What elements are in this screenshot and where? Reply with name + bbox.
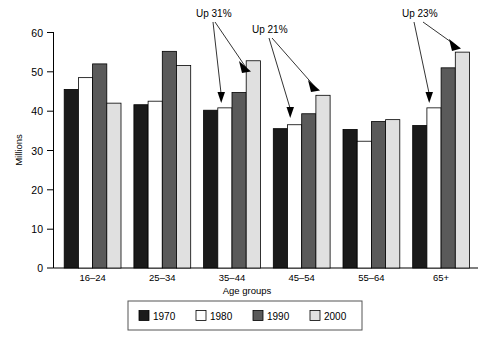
bar: [64, 89, 78, 268]
x-tick-label-0: 16–24: [79, 272, 105, 283]
legend-swatch-1990: [253, 311, 263, 321]
x-tick-label-3: 45–54: [288, 272, 314, 283]
y-tick-label-60: 60: [31, 27, 43, 39]
bar: [107, 103, 121, 268]
bar: [455, 52, 469, 268]
bar: [302, 114, 316, 268]
bar: [204, 110, 218, 268]
legend-swatch-2000: [310, 311, 320, 321]
y-tick-label-20: 20: [31, 184, 43, 196]
legend-item-1980[interactable]: 1980: [196, 311, 233, 322]
annotation-label-3: Up 23%: [402, 8, 438, 19]
bar: [316, 95, 330, 268]
bar: [371, 122, 385, 268]
bar: [232, 93, 246, 268]
legend-swatch-1970: [139, 311, 149, 321]
bar: [386, 120, 400, 268]
legend-swatch-1980: [196, 311, 206, 321]
y-tick-label-50: 50: [31, 66, 43, 78]
annotation-label-2: Up 21%: [252, 24, 288, 35]
legend-item-1990[interactable]: 1990: [253, 311, 290, 322]
y-tick-label-30: 30: [31, 145, 43, 157]
y-axis-title: Millions: [13, 134, 24, 166]
y-tick-label-40: 40: [31, 105, 43, 117]
legend-label-1970: 1970: [153, 311, 176, 322]
x-axis-title: Age groups: [223, 285, 272, 296]
legend-item-1970[interactable]: 1970: [139, 311, 176, 322]
bar: [441, 68, 455, 268]
bar: [148, 101, 162, 268]
bar: [357, 141, 371, 268]
x-tick-label-4: 55–64: [358, 272, 384, 283]
chart-canvas: 60 50 40 30 20 10 0 Millions 16–24 25–34…: [0, 0, 488, 341]
bar: [427, 108, 441, 268]
annotation-label-1: Up 31%: [196, 8, 232, 19]
bar: [413, 126, 427, 268]
x-tick-label-5: 65+: [433, 272, 450, 283]
bar: [343, 129, 357, 268]
bar: [218, 108, 232, 268]
x-tick-label-2: 35–44: [219, 272, 245, 283]
bar-chart: 60 50 40 30 20 10 0 Millions 16–24 25–34…: [0, 0, 488, 341]
bar: [273, 129, 287, 268]
bar: [288, 125, 302, 268]
bar: [93, 64, 107, 268]
x-tick-label-1: 25–34: [149, 272, 175, 283]
legend-item-2000[interactable]: 2000: [310, 311, 347, 322]
legend: 1970 1980 1990 2000: [128, 301, 362, 330]
bar: [162, 51, 176, 268]
legend-label-1980: 1980: [210, 311, 233, 322]
bar: [134, 105, 148, 268]
bar: [78, 78, 92, 268]
legend-label-2000: 2000: [324, 311, 347, 322]
y-tick-label-0: 0: [37, 262, 43, 274]
bar: [246, 61, 260, 268]
bar: [177, 65, 191, 268]
legend-label-1990: 1990: [267, 311, 290, 322]
y-tick-label-10: 10: [31, 223, 43, 235]
